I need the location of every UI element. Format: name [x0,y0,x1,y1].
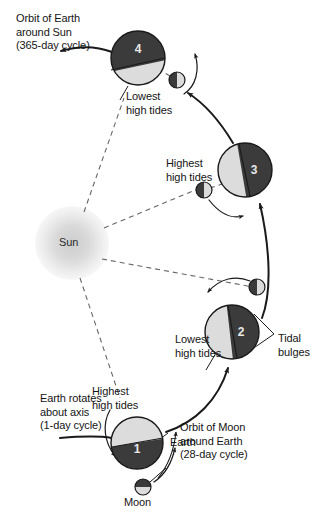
sun-ray-to-earth3 [104,188,200,228]
annotation-tides-earth-4: Lowest high tides [126,90,172,117]
moon-3 [196,182,212,198]
diagram-canvas [0,0,324,513]
moon-3-dark-half [196,182,204,198]
sun-ray-to-earth2 [102,259,253,287]
moon-orbit-arc-3 [209,200,243,217]
earth-2-number: 2 [233,325,249,339]
moon-4-dark-half [169,72,177,88]
tides-diagram: Sun [0,0,324,513]
moon-orbit-arc-4 [184,54,197,94]
moon-4 [169,72,185,88]
annotation-earth-orbit: Orbit of Earth around Sun (365-day cycle… [16,12,90,53]
orbit-arc-into-1 [60,437,112,439]
moon-orbit-arcs-group [105,54,250,482]
earth-3-number: 3 [246,163,262,177]
annotation-moon-label: Moon [124,496,151,510]
annotation-tidal-bulges: Tidal bulges [278,332,310,359]
annotation-earth-label: Earth [170,436,196,450]
earth-4-number: 4 [130,42,146,56]
moon-1 [135,479,151,495]
moon-2 [249,279,265,295]
annotation-tides-earth-2: Lowest high tides [175,333,221,360]
earth-1-number: 1 [129,442,145,456]
sun-ray-to-earth1 [80,278,120,398]
orbit-arc-2-to-3 [260,204,269,318]
moon-1-dark-half [135,479,151,487]
sun-ray-to-earth4 [84,98,124,212]
annotation-tides-earth-1: Highest high tides [92,385,138,412]
earth-4 [105,25,175,95]
orbit-arc-3-to-4 [188,93,233,143]
annotation-tides-earth-3: Highest high tides [166,157,212,184]
